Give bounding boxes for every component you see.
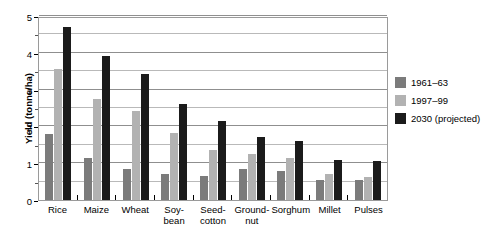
x-axis-label-line2: nut xyxy=(245,215,258,226)
x-axis-label: Wheat xyxy=(116,204,155,226)
bar xyxy=(161,174,169,200)
bar xyxy=(218,121,226,200)
y-tick-mark xyxy=(34,54,38,55)
bar-group xyxy=(116,18,155,200)
x-axis-label: Sorghum xyxy=(271,204,310,226)
bar xyxy=(248,154,256,200)
legend-swatch-icon xyxy=(395,113,406,124)
y-tick-mark xyxy=(34,91,38,92)
bar xyxy=(141,74,149,200)
bar xyxy=(277,171,285,200)
y-tick-mark xyxy=(34,127,38,128)
y-tick-mark xyxy=(34,201,38,202)
x-axis-label: Millet xyxy=(310,204,349,226)
bar-group xyxy=(155,18,194,200)
y-tick-mark-minor xyxy=(35,183,38,184)
y-tick-label: 3 xyxy=(2,85,32,96)
x-axis-label: Seed-cotton xyxy=(194,204,233,226)
bar-group xyxy=(78,18,117,200)
bar xyxy=(364,177,372,200)
bar xyxy=(334,160,342,200)
bar xyxy=(170,133,178,200)
x-axis-label: Maize xyxy=(77,204,116,226)
bar xyxy=(209,150,217,200)
bar xyxy=(93,99,101,200)
bar xyxy=(200,176,208,200)
bar xyxy=(295,141,303,200)
bar xyxy=(373,161,381,200)
legend-label: 1961–63 xyxy=(411,77,448,88)
bar xyxy=(123,169,131,200)
legend-label: 1997–99 xyxy=(411,95,448,106)
y-tick-label: 0 xyxy=(2,196,32,207)
legend-item[interactable]: 1961–63 xyxy=(395,77,480,88)
x-axis-label-line2: bean xyxy=(164,215,185,226)
bar-group xyxy=(39,18,78,200)
y-tick-label: 5 xyxy=(2,12,32,23)
x-axis-label: Ground-nut xyxy=(232,204,271,226)
y-tick-mark xyxy=(34,164,38,165)
legend-item[interactable]: 1997–99 xyxy=(395,95,480,106)
bar xyxy=(102,56,110,200)
bar xyxy=(45,134,53,200)
y-tick-label: 1 xyxy=(2,159,32,170)
bar xyxy=(286,158,294,200)
bar-group xyxy=(310,18,349,200)
bar xyxy=(132,111,140,200)
y-tick-mark-minor xyxy=(35,146,38,147)
bar xyxy=(257,137,265,200)
x-axis-label: Pulses xyxy=(349,204,388,226)
y-tick-mark-minor xyxy=(35,72,38,73)
y-axis-title: Yield (tonne/ha) xyxy=(23,39,34,179)
bar-group xyxy=(348,18,387,200)
bar xyxy=(355,180,363,200)
y-tick-mark xyxy=(34,17,38,18)
x-axis-label: Rice xyxy=(38,204,77,226)
bar xyxy=(239,169,247,200)
bar xyxy=(316,180,324,200)
bar-group xyxy=(271,18,310,200)
y-tick-mark-minor xyxy=(35,35,38,36)
legend-item[interactable]: 2030 (projected) xyxy=(395,113,480,124)
bar xyxy=(63,27,71,200)
x-axis-label-line2: cotton xyxy=(200,215,226,226)
bar xyxy=(54,69,62,200)
bar-groups xyxy=(39,18,387,200)
legend-swatch-icon xyxy=(395,77,406,88)
bar xyxy=(84,158,92,200)
y-tick-label: 2 xyxy=(2,122,32,133)
bar-group xyxy=(232,18,271,200)
legend: 1961–631997–992030 (projected) xyxy=(395,77,480,124)
bar xyxy=(179,104,187,200)
y-tick-label: 4 xyxy=(2,48,32,59)
plot-area xyxy=(38,17,388,201)
bar-chart: Yield (tonne/ha) 012345 RiceMaizeWheatSo… xyxy=(0,0,497,244)
legend-label: 2030 (projected) xyxy=(411,113,480,124)
x-axis-labels: RiceMaizeWheatSoy-beanSeed-cottonGround-… xyxy=(38,204,388,226)
bar-group xyxy=(194,18,233,200)
bar xyxy=(325,174,333,200)
y-tick-mark-minor xyxy=(35,109,38,110)
legend-swatch-icon xyxy=(395,95,406,106)
x-axis-label: Soy-bean xyxy=(155,204,194,226)
gridline-major xyxy=(39,15,387,16)
